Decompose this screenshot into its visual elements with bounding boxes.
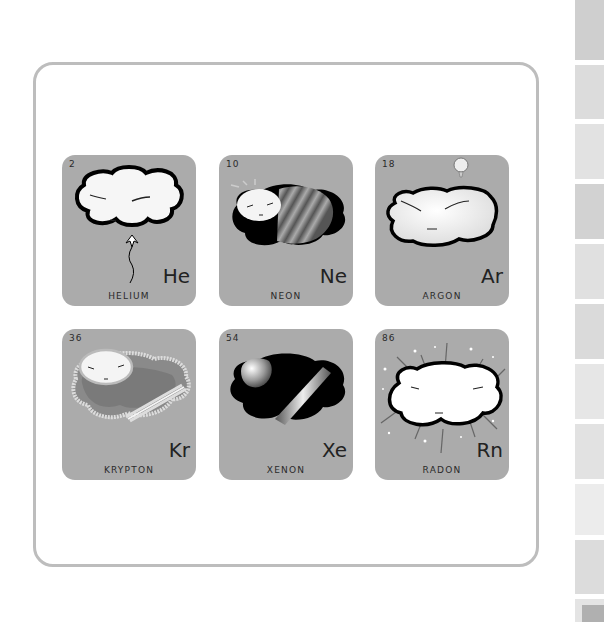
element-name: HELIUM <box>62 291 196 301</box>
element-card-krypton[interactable]: 36 Kr KRYPTON <box>62 329 196 480</box>
element-name: ARGON <box>375 291 509 301</box>
atomic-number: 86 <box>382 333 395 343</box>
side-tab-8[interactable] <box>575 424 604 479</box>
element-card-xenon[interactable]: 54 Xe XENON <box>219 329 353 480</box>
element-symbol: Ne <box>320 266 347 286</box>
side-tab-7[interactable] <box>575 364 604 419</box>
element-panel-frame <box>33 62 539 567</box>
side-tab-10[interactable] <box>575 540 604 594</box>
element-card-radon[interactable]: 86 Rn RADON <box>375 329 509 480</box>
element-symbol: He <box>163 266 190 286</box>
element-symbol: Rn <box>476 440 503 460</box>
atomic-number: 54 <box>226 333 239 343</box>
side-tab-4[interactable] <box>575 184 604 239</box>
side-tab-11[interactable] <box>575 599 604 622</box>
element-name: KRYPTON <box>62 465 196 475</box>
atomic-number: 2 <box>69 159 76 169</box>
side-tab-9[interactable] <box>575 484 604 535</box>
element-card-argon[interactable]: 18 Ar ARGON <box>375 155 509 306</box>
element-symbol: Xe <box>322 440 347 460</box>
side-tab-3[interactable] <box>575 124 604 179</box>
element-name: NEON <box>219 291 353 301</box>
atomic-number: 36 <box>69 333 82 343</box>
element-name: RADON <box>375 465 509 475</box>
side-tab-1[interactable] <box>575 0 604 60</box>
element-name: XENON <box>219 465 353 475</box>
element-symbol: Ar <box>481 266 503 286</box>
atomic-number: 10 <box>226 159 239 169</box>
element-symbol: Kr <box>169 440 190 460</box>
element-card-helium[interactable]: 2 He HELIUM <box>62 155 196 306</box>
side-tab-5[interactable] <box>575 244 604 299</box>
atomic-number: 18 <box>382 159 395 169</box>
side-tab-2[interactable] <box>575 65 604 119</box>
side-tab-6[interactable] <box>575 304 604 359</box>
element-card-neon[interactable]: 10 Ne NEON <box>219 155 353 306</box>
